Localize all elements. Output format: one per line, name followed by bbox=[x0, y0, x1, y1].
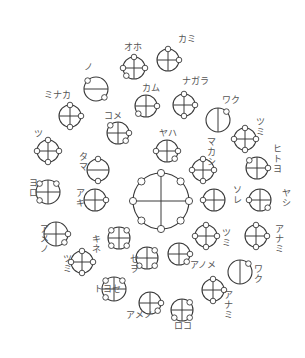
node-dot bbox=[242, 125, 248, 131]
node-dot bbox=[62, 240, 68, 246]
node-dot bbox=[172, 315, 178, 321]
glyph-unit: マカシ bbox=[189, 137, 217, 184]
glyph-unit: アナミ bbox=[245, 222, 284, 254]
glyph-units: オホカミノカムナガラミナカワクコメツツミヤハタママカシヒトヨヨロアキソレヤシアメ… bbox=[29, 34, 291, 331]
circle-glyph-diagram: オホカミノカムナガラミナカワクコメツツミヤハタママカシヒトヨヨロアキソレヤシアメ… bbox=[0, 0, 305, 358]
katakana-label: アノメ bbox=[190, 260, 216, 270]
node-dot bbox=[242, 147, 248, 153]
node-dot bbox=[37, 198, 43, 204]
node-dot bbox=[79, 248, 85, 254]
katakana-label: セヲ bbox=[130, 254, 139, 274]
node-dot bbox=[45, 137, 51, 143]
node-dot bbox=[78, 113, 84, 119]
node-dot bbox=[187, 315, 193, 321]
node-dot bbox=[124, 73, 130, 79]
katakana-label: ワク bbox=[254, 264, 263, 284]
glyph-unit: アメノ bbox=[126, 292, 164, 320]
katakana-label: ノ bbox=[84, 62, 93, 72]
node-dot bbox=[253, 222, 259, 228]
node-dot bbox=[67, 124, 73, 130]
node-dot bbox=[79, 270, 85, 276]
glyph-unit: ソレ bbox=[200, 185, 242, 211]
katakana-label: アキ bbox=[76, 188, 85, 208]
node-dot bbox=[90, 259, 96, 265]
katakana-label: アメノ bbox=[40, 224, 49, 254]
node-dot bbox=[120, 278, 126, 284]
glyph-unit: ミナカ bbox=[44, 90, 84, 130]
node-dot bbox=[175, 148, 181, 154]
katakana-label: ヤシ bbox=[282, 188, 291, 208]
node-dot bbox=[187, 251, 193, 257]
node-dot bbox=[187, 300, 193, 306]
node-dot bbox=[154, 103, 160, 109]
katakana-label: ヒトヨ bbox=[273, 144, 282, 174]
katakana-label: ツミ bbox=[63, 254, 72, 274]
node-dot bbox=[109, 228, 115, 234]
node-dot bbox=[265, 205, 271, 211]
node-dot bbox=[126, 130, 132, 136]
glyph-unit: ヤハ bbox=[153, 128, 181, 162]
glyph-unit: ツミ bbox=[63, 248, 96, 276]
glyph-unit: タマ bbox=[79, 152, 109, 184]
glyph-unit: アキ bbox=[76, 188, 109, 211]
node-dot bbox=[203, 244, 209, 250]
node-dot bbox=[189, 167, 195, 173]
node-dot bbox=[124, 228, 130, 234]
node-dot bbox=[214, 233, 220, 239]
node-dot bbox=[264, 233, 270, 239]
glyph-unit: ツ bbox=[34, 129, 62, 165]
node-dot bbox=[120, 65, 126, 71]
node-dot bbox=[34, 148, 40, 154]
node-dot bbox=[103, 197, 109, 203]
node-dot bbox=[192, 102, 198, 108]
node-dot bbox=[211, 167, 217, 173]
node-dot bbox=[158, 300, 164, 306]
glyph-unit: キネ bbox=[92, 227, 130, 254]
node-dot bbox=[177, 217, 184, 224]
node-dot bbox=[224, 109, 230, 115]
node-dot bbox=[85, 78, 91, 84]
node-dot bbox=[177, 178, 184, 185]
katakana-label: オホ bbox=[124, 42, 142, 52]
glyph-unit: ナガラ bbox=[173, 76, 209, 119]
glyph-unit: アナミ bbox=[202, 276, 233, 320]
node-dot bbox=[152, 263, 158, 269]
node-dot bbox=[108, 123, 114, 129]
node-dot bbox=[246, 261, 252, 267]
node-dot bbox=[136, 111, 142, 117]
glyph-unit: オホ bbox=[120, 42, 148, 79]
glyph-unit: カミ bbox=[157, 34, 196, 71]
node-dot bbox=[103, 295, 109, 301]
glyph-unit: ヨロ bbox=[29, 178, 60, 204]
node-dot bbox=[123, 138, 129, 144]
node-dot bbox=[124, 243, 130, 249]
node-dot bbox=[54, 181, 60, 187]
katakana-label: カム bbox=[142, 83, 160, 93]
glyph-unit: ツミ bbox=[192, 222, 231, 250]
node-dot bbox=[185, 197, 192, 204]
katakana-label: コメ bbox=[104, 111, 122, 121]
katakana-label: ヤハ bbox=[159, 128, 177, 138]
katakana-label: アナミ bbox=[224, 290, 233, 320]
node-dot bbox=[176, 57, 182, 63]
glyph-unit: ロコ bbox=[171, 299, 193, 331]
glyph-unit: ヤシ bbox=[246, 188, 291, 211]
katakana-label: アナミ bbox=[275, 224, 284, 254]
node-dot bbox=[138, 217, 145, 224]
glyph-unit: ヒトヨ bbox=[246, 144, 282, 179]
node-dot bbox=[56, 148, 62, 154]
node-dot bbox=[95, 156, 101, 162]
katakana-label: アメノ bbox=[126, 310, 153, 320]
node-dot bbox=[181, 113, 187, 119]
node-dot bbox=[129, 197, 136, 204]
node-dot bbox=[157, 225, 164, 232]
katakana-label: マカシ bbox=[207, 137, 216, 167]
node-dot bbox=[152, 248, 158, 254]
glyph-unit bbox=[129, 169, 192, 232]
node-dot bbox=[142, 65, 148, 71]
node-dot bbox=[153, 148, 159, 154]
node-dot bbox=[102, 95, 108, 101]
katakana-label: キネ bbox=[92, 234, 101, 254]
node-dot bbox=[109, 243, 115, 249]
glyph-unit: ツミ bbox=[231, 117, 265, 153]
